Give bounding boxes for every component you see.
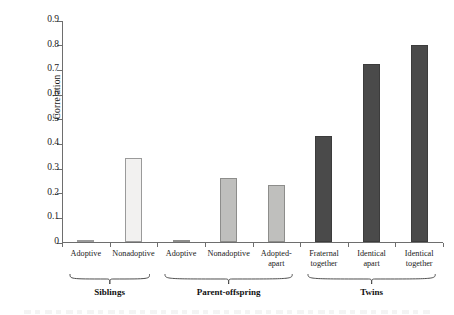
- group-label: Parent-offspring: [164, 287, 293, 297]
- bar: [411, 45, 428, 242]
- y-tick-label: 0.5: [47, 113, 59, 123]
- y-tick-label: 0.2: [47, 187, 59, 197]
- y-tick-label: 0: [54, 236, 59, 246]
- x-tick-mark: [443, 243, 444, 247]
- y-tick-label: 0.4: [47, 137, 59, 147]
- bar: [173, 240, 190, 242]
- x-axis-category-label: Identicalapart: [348, 249, 396, 268]
- x-axis-category-label: Fraternaltogether: [300, 249, 348, 268]
- x-axis-category-label: Adoptive: [62, 249, 110, 259]
- y-axis-line: [62, 21, 63, 243]
- bar-chart-figure: Correlation 00.10.20.30.40.50.60.70.80.9…: [0, 0, 454, 315]
- x-tick-mark: [395, 243, 396, 247]
- x-tick-mark: [348, 243, 349, 247]
- y-tick-label: 0.8: [47, 39, 59, 49]
- group-label: Twins: [307, 287, 436, 297]
- group-brace: [69, 274, 151, 285]
- bar: [220, 178, 237, 242]
- x-tick-mark: [110, 243, 111, 247]
- group-brace: [307, 274, 436, 285]
- x-tick-mark: [253, 243, 254, 247]
- x-tick-mark: [157, 243, 158, 247]
- x-axis-category-label: Adopted-apart: [253, 249, 301, 268]
- y-tick-label: 0.1: [47, 211, 59, 221]
- y-tick-label: 0.9: [47, 14, 59, 24]
- group-label: Siblings: [69, 287, 151, 297]
- y-tick-label: 0.6: [47, 88, 59, 98]
- x-tick-mark: [205, 243, 206, 247]
- bar: [268, 185, 285, 242]
- y-tick-label: 0.7: [47, 63, 59, 73]
- bar: [125, 158, 142, 242]
- bar: [363, 64, 380, 242]
- x-axis-category-label: Nonadoptive: [205, 249, 253, 259]
- x-axis-category-label: Identicaltogether: [395, 249, 443, 268]
- x-axis-category-label: Nonadoptive: [110, 249, 158, 259]
- y-tick-label: 0.3: [47, 162, 59, 172]
- x-tick-mark: [62, 243, 63, 247]
- group-brace: [164, 274, 293, 285]
- x-axis-category-label: Adoptive: [157, 249, 205, 259]
- plot-area: 00.10.20.30.40.50.60.70.80.9: [62, 21, 443, 243]
- caption-fragment: [24, 310, 430, 314]
- x-tick-mark: [300, 243, 301, 247]
- bar: [77, 240, 94, 242]
- bar: [315, 136, 332, 242]
